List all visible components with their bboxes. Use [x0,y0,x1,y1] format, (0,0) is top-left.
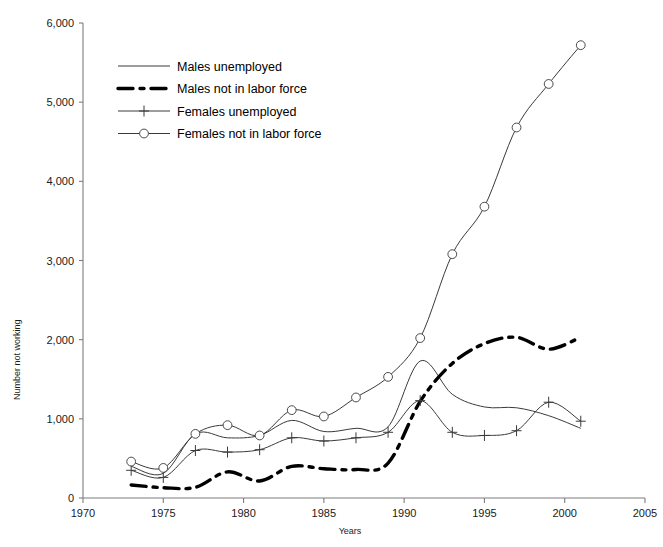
data-point-marker [255,431,264,440]
x-tick-label: 1990 [392,507,416,519]
data-point-marker [223,421,232,430]
series-line [131,337,581,489]
legend-item-males-not-in-labor-force[interactable]: Males not in labor force [118,82,307,96]
x-axis-tick-group: 19701975198019851990199520002005 [71,498,657,519]
y-tick-label: 2,000 [46,334,74,346]
x-tick-label: 2005 [633,507,657,519]
y-tick-label: 4,000 [46,175,74,187]
y-tick-label: 1,000 [46,413,74,425]
y-tick-label: 6,000 [46,17,74,29]
data-point-marker [576,41,585,50]
data-point-marker [384,372,393,381]
series-males-unemployed [131,360,581,475]
data-point-marker [512,123,521,132]
series-line [131,360,581,475]
x-tick-label: 1980 [231,507,255,519]
x-tick-label: 1995 [472,507,496,519]
legend-label: Males unemployed [177,60,282,74]
x-tick-label: 2000 [552,507,576,519]
legend-item-females-unemployed[interactable]: Females unemployed [118,105,297,119]
data-point-marker [159,464,168,473]
data-point-marker [480,202,489,211]
data-point-marker [352,393,361,402]
legend-item-females-not-in-labor-force[interactable]: Females not in labor force [118,127,322,141]
y-axis-tick-group: 01,0002,0003,0004,0005,0006,000 [46,17,83,504]
x-tick-label: 1985 [312,507,336,519]
y-tick-label: 0 [68,492,74,504]
x-tick-label: 1970 [71,507,95,519]
chart-legend: Males unemployedMales not in labor force… [118,60,322,142]
data-point-marker [127,457,136,466]
legend-item-males-unemployed[interactable]: Males unemployed [118,60,282,74]
x-axis-title: Years [339,526,362,536]
legend-marker-circle-icon [140,129,149,138]
chart-container: 01,0002,0003,0004,0005,0006,000 19701975… [0,0,663,547]
series-males-not-in-labor-force [131,337,581,489]
legend-label: Females unemployed [177,105,297,119]
y-axis-title: Number not working [12,319,22,400]
data-point-marker [448,250,457,259]
y-tick-label: 3,000 [46,255,74,267]
y-tick-label: 5,000 [46,96,74,108]
line-chart: 01,0002,0003,0004,0005,0006,000 19701975… [0,0,663,547]
legend-label: Females not in labor force [177,127,322,141]
legend-label: Males not in labor force [177,82,307,96]
data-point-marker [287,406,296,415]
data-point-marker [544,80,553,89]
data-point-marker [319,412,328,421]
data-point-marker [416,334,425,343]
data-point-marker [191,429,200,438]
x-tick-label: 1975 [151,507,175,519]
